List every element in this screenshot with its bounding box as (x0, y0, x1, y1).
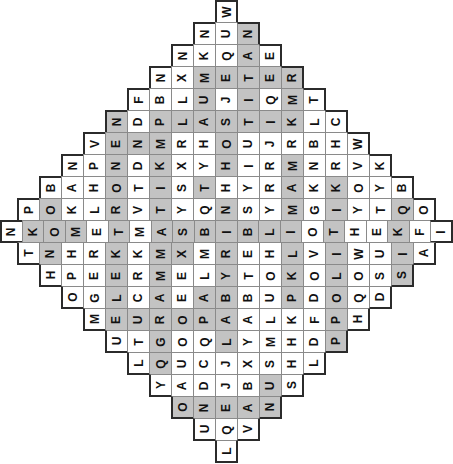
puzzle-cell[interactable]: Q (215, 418, 238, 441)
puzzle-cell[interactable]: S (172, 220, 195, 243)
puzzle-cell[interactable]: Y (215, 264, 238, 287)
puzzle-cell[interactable]: K (22, 220, 45, 243)
puzzle-cell[interactable]: N (303, 154, 326, 177)
puzzle-cell[interactable]: P (83, 154, 106, 177)
puzzle-cell[interactable]: B (194, 220, 217, 243)
puzzle-cell[interactable]: P (281, 286, 304, 309)
puzzle-cell[interactable]: P (325, 308, 348, 331)
puzzle-cell[interactable]: K (387, 220, 410, 243)
puzzle-cell[interactable]: V (127, 198, 150, 221)
puzzle-cell[interactable]: I (237, 88, 260, 111)
puzzle-cell[interactable]: L (105, 286, 128, 309)
puzzle-cell[interactable]: O (325, 286, 348, 309)
puzzle-cell[interactable]: D (303, 286, 326, 309)
puzzle-cell[interactable]: Q (193, 330, 216, 353)
puzzle-cell[interactable]: R (171, 132, 194, 155)
puzzle-cell[interactable]: L (258, 220, 281, 243)
puzzle-cell[interactable]: K (105, 242, 128, 265)
puzzle-cell[interactable]: U (127, 308, 150, 331)
puzzle-cell[interactable]: Q (391, 198, 414, 221)
puzzle-cell[interactable]: Y (369, 176, 392, 199)
puzzle-cell[interactable]: O (413, 198, 436, 221)
puzzle-cell[interactable]: E (105, 132, 128, 155)
puzzle-cell[interactable]: U (105, 330, 128, 353)
puzzle-cell[interactable]: T (237, 66, 260, 89)
puzzle-cell[interactable]: A (215, 308, 238, 331)
puzzle-cell[interactable]: C (193, 352, 216, 375)
puzzle-cell[interactable]: H (344, 220, 367, 243)
puzzle-cell[interactable]: A (171, 374, 194, 397)
puzzle-cell[interactable]: J (215, 352, 238, 375)
puzzle-cell[interactable]: D (127, 154, 150, 177)
puzzle-cell[interactable]: C (325, 110, 348, 133)
puzzle-cell[interactable]: H (215, 154, 238, 177)
puzzle-cell[interactable]: L (325, 264, 348, 287)
puzzle-cell[interactable]: O (171, 308, 194, 331)
puzzle-cell[interactable]: T (369, 198, 392, 221)
puzzle-cell[interactable]: B (237, 286, 260, 309)
puzzle-cell[interactable]: E (215, 66, 238, 89)
puzzle-cell[interactable]: W (215, 0, 238, 23)
puzzle-cell[interactable]: O (301, 220, 324, 243)
puzzle-cell[interactable]: L (171, 110, 194, 133)
puzzle-cell[interactable]: T (149, 198, 172, 221)
puzzle-cell[interactable]: K (369, 154, 392, 177)
puzzle-cell[interactable]: W (347, 132, 370, 155)
puzzle-cell[interactable]: B (149, 88, 172, 111)
puzzle-cell[interactable]: F (303, 308, 326, 331)
puzzle-cell[interactable]: R (259, 176, 282, 199)
puzzle-cell[interactable]: N (0, 220, 23, 243)
puzzle-cell[interactable]: L (127, 352, 150, 375)
puzzle-cell[interactable]: A (193, 286, 216, 309)
puzzle-cell[interactable]: B (39, 176, 62, 199)
puzzle-cell[interactable]: E (83, 264, 106, 287)
puzzle-cell[interactable]: C (127, 286, 150, 309)
puzzle-cell[interactable]: K (325, 176, 348, 199)
puzzle-cell[interactable]: J (215, 88, 238, 111)
puzzle-cell[interactable]: M (281, 154, 304, 177)
puzzle-cell[interactable]: O (105, 176, 128, 199)
puzzle-cell[interactable]: O (347, 176, 370, 199)
puzzle-cell[interactable]: O (347, 264, 370, 287)
puzzle-cell[interactable]: U (193, 418, 216, 441)
puzzle-cell[interactable]: H (259, 242, 282, 265)
puzzle-cell[interactable]: R (281, 66, 304, 89)
puzzle-cell[interactable]: A (237, 44, 260, 67)
puzzle-cell[interactable]: F (127, 88, 150, 111)
puzzle-cell[interactable]: R (83, 242, 106, 265)
puzzle-cell[interactable]: F (409, 220, 432, 243)
puzzle-cell[interactable]: N (39, 242, 62, 265)
puzzle-cell[interactable]: S (369, 264, 392, 287)
puzzle-cell[interactable]: H (61, 242, 84, 265)
puzzle-cell[interactable]: Y (149, 374, 172, 397)
puzzle-cell[interactable]: M (129, 220, 152, 243)
puzzle-cell[interactable]: I (430, 220, 453, 243)
puzzle-cell[interactable]: I (215, 220, 238, 243)
puzzle-cell[interactable]: P (17, 198, 40, 221)
puzzle-cell[interactable]: A (237, 396, 260, 419)
puzzle-cell[interactable]: O (43, 220, 66, 243)
puzzle-cell[interactable]: D (369, 286, 392, 309)
puzzle-cell[interactable]: T (237, 110, 260, 133)
puzzle-cell[interactable]: T (17, 242, 40, 265)
puzzle-cell[interactable]: T (323, 220, 346, 243)
puzzle-cell[interactable]: K (281, 264, 304, 287)
puzzle-cell[interactable]: G (149, 330, 172, 353)
puzzle-cell[interactable]: R (325, 154, 348, 177)
puzzle-cell[interactable]: L (259, 308, 282, 331)
puzzle-cell[interactable]: M (281, 88, 304, 111)
puzzle-cell[interactable]: Q (149, 352, 172, 375)
puzzle-cell[interactable]: H (39, 264, 62, 287)
puzzle-cell[interactable]: K (281, 110, 304, 133)
puzzle-cell[interactable]: P (149, 110, 172, 133)
puzzle-cell[interactable]: S (237, 198, 260, 221)
puzzle-cell[interactable]: Y (237, 176, 260, 199)
puzzle-cell[interactable]: I (280, 220, 303, 243)
puzzle-cell[interactable]: A (281, 176, 304, 199)
puzzle-cell[interactable]: S (171, 176, 194, 199)
puzzle-cell[interactable]: T (193, 176, 216, 199)
puzzle-cell[interactable]: S (215, 110, 238, 133)
puzzle-cell[interactable]: R (281, 132, 304, 155)
puzzle-cell[interactable]: T (108, 220, 131, 243)
puzzle-cell[interactable]: I (149, 176, 172, 199)
